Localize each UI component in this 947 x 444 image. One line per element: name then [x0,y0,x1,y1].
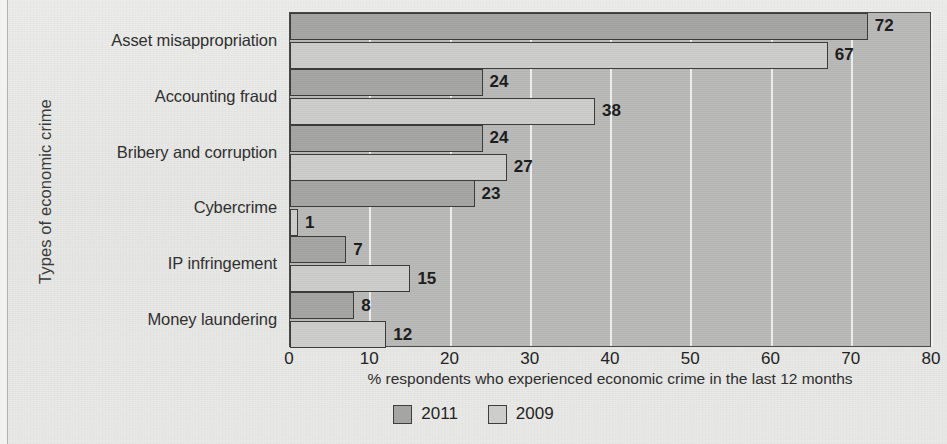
x-axis-title: % respondents who experienced economic c… [289,370,931,388]
bar-value-label: 72 [875,16,894,36]
bar-2011-5 [290,236,346,263]
x-tick-30: 30 [520,349,539,369]
bar-value-label: 24 [490,72,509,92]
x-tick-40: 40 [601,349,620,369]
bar-value-label: 7 [353,240,362,260]
x-tick-70: 70 [841,349,860,369]
bar-value-label: 12 [393,325,412,345]
bar-2009-4 [290,209,298,236]
x-tick-50: 50 [681,349,700,369]
category-label-6: Money laundering [147,310,277,329]
plot-area: 726724382427231715812 [289,12,931,347]
bar-2011-6 [290,292,354,319]
bar-2009-3 [290,154,507,181]
legend-item-2011[interactable]: 2011 [393,404,458,424]
bar-value-label: 67 [835,45,854,65]
bar-2009-5 [290,265,410,292]
bar-value-label: 15 [417,269,436,289]
x-tick-10: 10 [360,349,379,369]
legend-swatch-icon-2011 [393,405,412,424]
x-tick-0: 0 [284,349,293,369]
bar-2009-6 [290,321,386,348]
x-tick-20: 20 [440,349,459,369]
bar-value-label: 24 [490,128,509,148]
scan-border-line [7,0,8,444]
bar-2011-4 [290,180,475,207]
bar-value-label: 8 [361,296,370,316]
bar-value-label: 27 [514,157,533,177]
y-axis-category-labels: Asset misappropriationAccounting fraudBr… [40,12,281,347]
scan-margin [0,0,7,444]
bar-value-label: 23 [482,184,501,204]
bar-2011-1 [290,13,868,40]
legend-label: 2011 [421,404,458,424]
bar-value-label: 1 [305,213,314,233]
gridline-x-80 [931,13,933,346]
bar-value-label: 38 [602,101,621,121]
bar-2011-2 [290,69,483,96]
x-tick-60: 60 [761,349,780,369]
category-label-4: Cybercrime [194,198,277,217]
bar-2011-3 [290,125,483,152]
bar-2009-1 [290,42,828,69]
category-label-3: Bribery and corruption [117,142,277,161]
legend-item-2009[interactable]: 2009 [488,404,554,424]
category-label-1: Asset misappropriation [111,30,277,49]
category-label-2: Accounting fraud [155,86,277,105]
bar-2009-2 [290,98,595,125]
legend-label: 2009 [516,404,554,424]
chart-page: Types of economic crime Asset misappropr… [0,0,947,444]
chart-legend: 20112009 [0,404,947,424]
category-label-5: IP infringement [168,254,277,273]
x-tick-80: 80 [922,349,941,369]
legend-swatch-icon-2009 [488,405,507,424]
